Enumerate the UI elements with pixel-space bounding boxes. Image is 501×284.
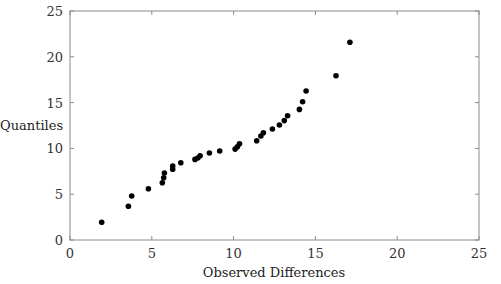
data-point — [99, 220, 105, 226]
y-tick-label: 5 — [55, 187, 63, 202]
data-point — [197, 153, 203, 159]
y-tick-label: 0 — [55, 233, 63, 248]
data-point — [161, 175, 167, 181]
x-tick-label: 15 — [307, 246, 324, 261]
data-point — [303, 88, 309, 94]
data-point — [277, 122, 283, 128]
data-point — [160, 180, 166, 186]
data-point — [237, 141, 243, 147]
y-axis-label: Quantiles — [0, 118, 63, 133]
x-tick-label: 20 — [389, 246, 406, 261]
x-tick-label: 5 — [148, 246, 156, 261]
data-point — [333, 73, 339, 79]
data-point — [347, 40, 353, 46]
qq-scatter-chart: 0510152025 0510152025 Observed Differenc… — [0, 0, 501, 284]
data-point — [129, 193, 135, 199]
data-point — [146, 186, 152, 192]
x-tick-label: 10 — [225, 246, 242, 261]
data-point — [170, 163, 176, 169]
data-point — [282, 118, 288, 124]
y-tick-label: 10 — [46, 141, 63, 156]
y-tick-label: 25 — [46, 4, 63, 19]
data-point — [207, 150, 213, 156]
x-tick-label: 25 — [471, 246, 488, 261]
y-tick-label: 20 — [46, 50, 63, 65]
data-point — [126, 204, 132, 210]
data-point — [297, 107, 303, 113]
data-point — [178, 160, 184, 166]
x-tick-labels: 0510152025 — [66, 246, 487, 261]
data-point — [162, 170, 168, 176]
data-point — [254, 138, 260, 144]
x-tick-label: 0 — [66, 246, 74, 261]
data-point — [300, 99, 306, 105]
data-point — [270, 126, 276, 132]
y-tick-label: 15 — [46, 96, 63, 111]
x-axis-label: Observed Differences — [203, 265, 346, 280]
data-point — [217, 148, 223, 154]
data-point — [285, 113, 291, 119]
data-point — [261, 130, 267, 136]
axis-ticks — [70, 11, 479, 240]
plot-frame — [70, 11, 479, 240]
data-points — [99, 40, 353, 226]
